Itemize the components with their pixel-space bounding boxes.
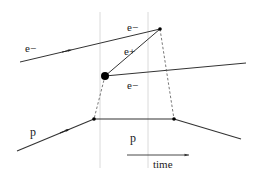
- incoming-proton-line: [17, 119, 94, 151]
- feynman-diagram: e− e− e+ e− p p time: [0, 0, 258, 173]
- label-outgoing-electron-bottom: e−: [127, 79, 138, 91]
- outgoing-electron-line: [105, 63, 246, 76]
- vertex-top: [158, 27, 162, 31]
- label-positron: e+: [124, 45, 135, 57]
- incoming-proton-arrow-icon: [60, 130, 68, 133]
- label-intermediate-proton: p: [130, 131, 136, 145]
- photon-line-right: [160, 29, 174, 119]
- label-outgoing-electron-top: e−: [127, 21, 138, 33]
- vertex-proton-left: [92, 117, 96, 121]
- photon-line-left: [94, 76, 105, 119]
- incoming-electron-line: [20, 29, 160, 62]
- label-time-axis: time: [153, 158, 173, 170]
- label-incoming-electron: e−: [25, 42, 36, 54]
- vertex-proton-right: [172, 117, 176, 121]
- incoming-electron-arrow-icon: [62, 50, 70, 52]
- vertex-pair-creation: [101, 72, 109, 80]
- outgoing-proton-line: [174, 119, 241, 139]
- label-incoming-proton: p: [30, 125, 36, 139]
